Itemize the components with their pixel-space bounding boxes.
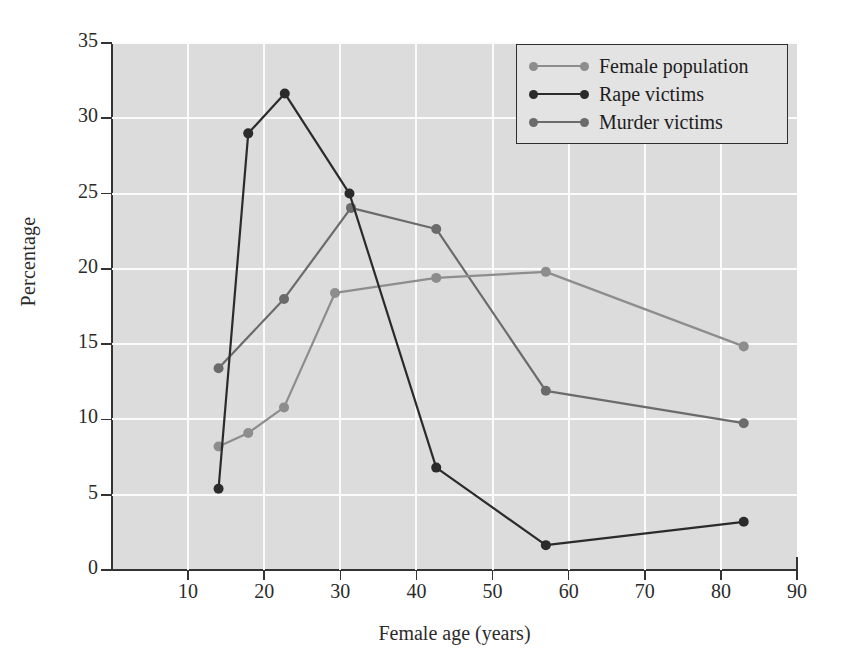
y-tick-label: 30 [54, 104, 98, 127]
y-tick-mark [101, 494, 112, 496]
legend-label-female-population: Female population [599, 56, 748, 76]
x-tick-mark [492, 570, 494, 580]
y-tick-mark [101, 42, 112, 44]
x-tick-label: 10 [158, 580, 218, 603]
data-point [541, 540, 551, 550]
data-point [739, 418, 749, 428]
y-tick-mark [101, 268, 112, 270]
y-tick-label: 0 [54, 556, 98, 579]
legend-swatch-murder-victims [529, 116, 589, 128]
data-point [431, 463, 441, 473]
x-tick-mark [187, 570, 189, 580]
x-axis-title: Female age (years) [112, 622, 797, 645]
series-rape-victims [214, 88, 749, 550]
x-tick-label: 20 [234, 580, 294, 603]
legend-swatch-female-population [529, 60, 589, 72]
y-tick-label: 15 [54, 330, 98, 353]
y-tick-label: 35 [54, 29, 98, 52]
data-point [541, 386, 551, 396]
data-point [344, 189, 354, 199]
y-tick-mark [101, 419, 112, 421]
data-point [214, 363, 224, 373]
series-line [219, 93, 744, 545]
y-tick-label: 5 [54, 481, 98, 504]
series-murder-victims [214, 203, 749, 428]
x-tick-label: 90 [767, 580, 827, 603]
y-tick-mark [101, 569, 112, 571]
legend-item[interactable]: Female population [529, 52, 777, 80]
x-tick-label: 60 [539, 580, 599, 603]
y-tick-label: 20 [54, 255, 98, 278]
legend-label-rape-victims: Rape victims [599, 84, 704, 104]
legend-swatch-rape-victims [529, 88, 589, 100]
x-tick-mark [568, 570, 570, 580]
data-point [279, 294, 289, 304]
data-point [330, 288, 340, 298]
data-point [431, 273, 441, 283]
data-point [214, 484, 224, 494]
data-point [243, 428, 253, 438]
x-tick-mark [416, 570, 418, 580]
series-line [219, 208, 744, 423]
y-tick-mark [101, 193, 112, 195]
y-tick-mark [101, 117, 112, 119]
x-tick-mark [720, 570, 722, 580]
series-line [219, 272, 744, 447]
x-tick-label: 30 [310, 580, 370, 603]
y-tick-label: 10 [54, 405, 98, 428]
x-tick-mark [644, 570, 646, 580]
x-tick-label: 80 [691, 580, 751, 603]
y-tick-label: 25 [54, 180, 98, 203]
y-axis-title: Percentage [17, 172, 40, 352]
x-tick-mark [796, 570, 798, 580]
data-point [431, 224, 441, 234]
data-point [541, 267, 551, 277]
x-tick-label: 70 [615, 580, 675, 603]
x-tick-mark [340, 570, 342, 580]
chart-legend: Female population Rape victims Murder vi… [516, 44, 788, 144]
legend-item[interactable]: Murder victims [529, 108, 777, 136]
data-point [739, 341, 749, 351]
legend-item[interactable]: Rape victims [529, 80, 777, 108]
legend-label-murder-victims: Murder victims [599, 112, 723, 132]
x-tick-mark [263, 570, 265, 580]
x-tick-label: 40 [386, 580, 446, 603]
x-tick-label: 50 [463, 580, 523, 603]
data-point [279, 402, 289, 412]
y-tick-mark [101, 343, 112, 345]
line-chart-figure: Percentage 05101520253035 10203040506070… [0, 0, 847, 672]
data-point [280, 88, 290, 98]
data-point [243, 128, 253, 138]
data-point [739, 517, 749, 527]
